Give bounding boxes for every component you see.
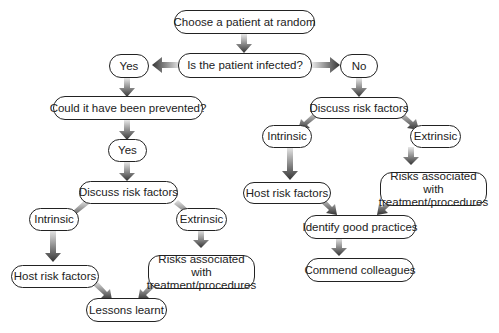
node-prevented: Could it have been prevented?: [53, 96, 203, 120]
node-right-risks: Risks associated with treatment/procedur…: [380, 172, 487, 206]
node-left-discuss: Discuss risk factors: [79, 181, 178, 204]
node-question: Is the patient infected?: [178, 53, 312, 78]
node-commend: Commend colleagues: [306, 258, 414, 282]
node-yes: Yes: [109, 54, 149, 78]
node-right-extrinsic: Extrinsic: [410, 125, 461, 148]
node-left-intrinsic: Intrinsic: [29, 208, 79, 231]
node-left-risks: Risks associated with treatment/procedur…: [148, 255, 255, 289]
node-good-practices: Identify good practices: [304, 215, 416, 239]
node-lessons: Lessons learnt: [86, 298, 167, 322]
node-right-discuss: Discuss risk factors: [310, 97, 408, 119]
node-right-host: Host risk factors: [243, 182, 331, 204]
node-prevented-yes: Yes: [108, 139, 147, 162]
node-left-host: Host risk factors: [11, 265, 99, 288]
node-no: No: [340, 54, 378, 78]
node-start: Choose a patient at random: [174, 10, 315, 34]
node-right-intrinsic: Intrinsic: [262, 125, 312, 148]
node-left-extrinsic: Extrinsic: [176, 208, 227, 231]
